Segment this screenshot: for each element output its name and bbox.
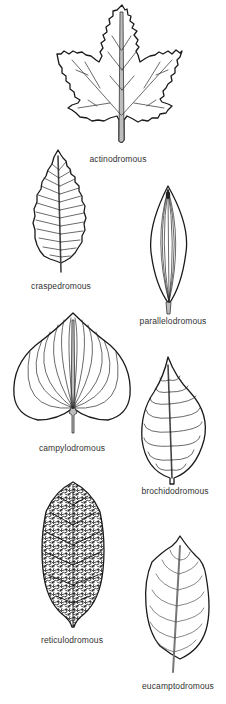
label-brochidodromous: brochidodromous [141,486,208,496]
leaf-reticulodromous [42,482,104,627]
leaf-campylodromous [14,313,130,433]
label-parallelodromous: parallelodromous [140,316,207,326]
label-actinodromous: actinodromous [89,154,146,164]
label-reticulodromous: reticulodromous [41,635,103,645]
leaf-parallelodromous [151,186,187,314]
leaf-eucamptodromous [146,536,209,672]
leaf-brochidodromous [142,357,206,484]
venation-diagram [0,0,226,704]
leaf-actinodromous [57,5,182,142]
leaf-craspedromous [33,150,86,272]
label-campylodromous: campylodromous [39,443,105,453]
label-craspedromous: craspedromous [31,281,91,291]
label-eucamptodromous: eucamptodromous [142,681,214,691]
